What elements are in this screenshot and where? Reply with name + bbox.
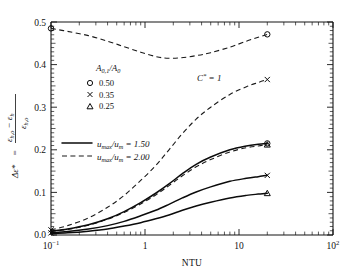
y-tick-label-1: 0.1 — [34, 188, 46, 198]
y-tick-label-4: 0.4 — [34, 60, 46, 70]
y-axis-title-denominator: εh,o — [18, 118, 29, 129]
y-tick-labels: 0.0 0.1 0.2 0.3 0.4 0.5 — [34, 18, 46, 240]
legend-triangle-icon — [87, 104, 93, 109]
x-tick-label-1: 1 — [143, 241, 148, 251]
y-axis-title-delta: Δε* — [10, 164, 20, 179]
legend-markers: A0,1/A0 0.50 0.35 0.25 — [87, 63, 121, 111]
y-axis-title-numerator: εh,o − εh — [4, 114, 15, 143]
y-tick-label-2: 0.2 — [34, 145, 46, 155]
chart-svg: 10−1 1 10 102 0.0 0.1 0.2 0.3 0.4 0.5 NT… — [0, 0, 347, 278]
x-tick-label-2: 10 — [234, 241, 244, 251]
curve-0 — [51, 28, 267, 58]
legend-solid-label: umax/um = 1.50 — [97, 139, 150, 150]
axis-ticks — [51, 22, 333, 235]
y-tick-label-0: 0.0 — [34, 230, 46, 240]
y-tick-label-3: 0.3 — [34, 103, 46, 113]
x-axis-title: NTU — [182, 258, 203, 268]
y-axis-title-equals: = — [10, 150, 20, 156]
legend-dashed-label: umax/um = 2.00 — [97, 152, 150, 163]
x-tick-label-0: 10−1 — [43, 239, 60, 251]
legend-circle-label: 0.50 — [99, 78, 114, 88]
legend-circle-icon — [87, 80, 92, 85]
legend-linestyles: umax/um = 1.50 umax/um = 2.00 — [62, 139, 150, 163]
curve-5 — [51, 193, 267, 233]
chart-figure: 10−1 1 10 102 0.0 0.1 0.2 0.3 0.4 0.5 NT… — [0, 0, 347, 278]
cstar-annotation: C* = 1 — [197, 72, 221, 83]
curve-1 — [51, 80, 267, 230]
legend-x-label: 0.35 — [99, 90, 114, 100]
legend-triangle-label: 0.25 — [99, 101, 114, 111]
data-marker-end-1 — [265, 77, 270, 82]
x-tick-label-3: 102 — [327, 239, 340, 251]
axes-frame — [51, 22, 333, 235]
y-tick-label-5: 0.5 — [34, 18, 46, 28]
legend-x-icon — [88, 92, 93, 97]
x-tick-labels: 10−1 1 10 102 — [43, 239, 340, 251]
y-axis-title: Δε* = εh,o − εh εh,o — [4, 94, 29, 179]
curve-4 — [51, 175, 267, 233]
legend-title-area-ratio: A0,1/A0 — [95, 63, 121, 74]
data-curves — [51, 28, 267, 233]
data-marker-end-0 — [265, 32, 270, 37]
